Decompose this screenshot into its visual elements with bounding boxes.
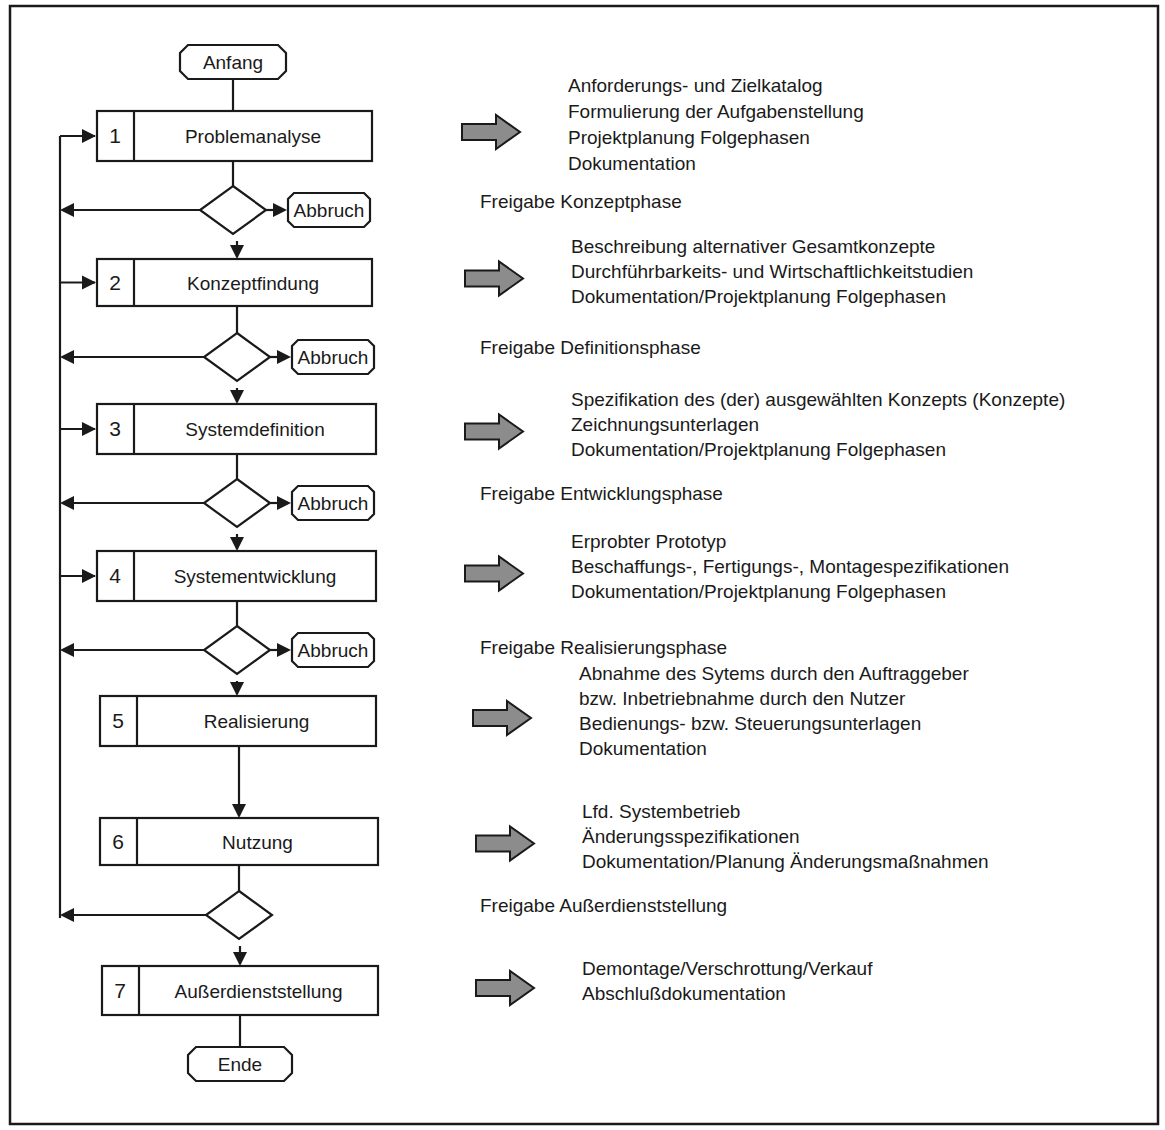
result-item: Abschlußdokumentation xyxy=(582,983,786,1004)
result-arrow-icon xyxy=(462,115,520,149)
end-label: Ende xyxy=(218,1054,262,1075)
phase-5: 5RealisierungAbnahme des Sytems durch de… xyxy=(100,663,969,759)
result-item: Formulierung der Aufgabenstellung xyxy=(568,101,864,122)
phase-4: 4SystementwicklungErprobter PrototypBesc… xyxy=(60,531,1009,674)
phase-number: 4 xyxy=(109,564,121,587)
phase-1: 1ProblemanalyseAnforderungs- und Zielkat… xyxy=(60,75,864,234)
result-item: Bedienungs- bzw. Steuerungsunterlagen xyxy=(579,713,921,734)
abort-label: Abbruch xyxy=(298,493,369,514)
decision-diamond xyxy=(206,891,272,939)
result-item: Dokumentation/Planung Änderungsmaßnahmen xyxy=(582,851,989,872)
result-item: Lfd. Systembetrieb xyxy=(582,801,740,822)
result-item: Abnahme des Sytems durch den Auftraggebe… xyxy=(579,663,969,684)
result-arrow-icon xyxy=(465,557,523,591)
end-terminal: Ende xyxy=(188,1047,292,1081)
abort-label: Abbruch xyxy=(298,347,369,368)
phase-number: 1 xyxy=(109,124,121,147)
release-label: Freigabe Realisierungsphase xyxy=(480,637,727,658)
result-item: Projektplanung Folgephasen xyxy=(568,127,810,148)
result-item: Dokumentation xyxy=(568,153,696,174)
release-label: Freigabe Außerdienststellung xyxy=(480,895,727,916)
result-item: Durchführbarkeits- und Wirtschaftlichkei… xyxy=(571,261,973,282)
result-item: Beschreibung alternativer Gesamtkonzepte xyxy=(571,236,935,257)
phase-number: 5 xyxy=(112,709,124,732)
result-item: Demontage/Verschrottung/Verkauf xyxy=(582,958,873,979)
decision-diamond xyxy=(204,333,270,381)
decision-diamond xyxy=(204,479,270,527)
abort-label: Abbruch xyxy=(298,640,369,661)
abort-terminal: Abbruch xyxy=(288,193,370,227)
phase-name: Systemdefinition xyxy=(185,419,324,440)
result-arrow-icon xyxy=(476,827,534,861)
result-item: Änderungsspezifikationen xyxy=(582,826,800,847)
abort-terminal: Abbruch xyxy=(292,486,374,520)
result-item: Dokumentation/Projektplanung Folgephasen xyxy=(571,439,946,460)
phase-name: Systementwicklung xyxy=(174,566,337,587)
phase-name: Außerdienststellung xyxy=(175,981,343,1002)
start-terminal: Anfang xyxy=(180,45,286,79)
abort-terminal: Abbruch xyxy=(292,340,374,374)
result-arrow-icon xyxy=(465,415,523,449)
phase-number: 3 xyxy=(109,417,121,440)
phase-2: 2KonzeptfindungBeschreibung alternativer… xyxy=(60,236,973,381)
release-label: Freigabe Definitionsphase xyxy=(480,337,701,358)
release-label: Freigabe Konzeptphase xyxy=(480,191,682,212)
phase-number: 2 xyxy=(109,271,121,294)
abort-label: Abbruch xyxy=(294,200,365,221)
release-label: Freigabe Entwicklungsphase xyxy=(480,483,723,504)
phase-name: Konzeptfindung xyxy=(187,273,319,294)
result-arrow-icon xyxy=(473,701,531,735)
result-arrow-icon xyxy=(465,262,523,296)
phase-number: 7 xyxy=(114,979,126,1002)
phase-3: 3SystemdefinitionSpezifikation des (der)… xyxy=(60,388,1065,527)
result-item: Erprobter Prototyp xyxy=(571,531,726,552)
phase-model-flowchart: Anfang 1ProblemanalyseAnforderungs- und … xyxy=(0,0,1165,1130)
phase-number: 6 xyxy=(112,830,124,853)
result-item: Beschaffungs-, Fertigungs-, Montagespezi… xyxy=(571,556,1009,577)
result-item: Anforderungs- und Zielkatalog xyxy=(568,75,823,96)
result-item: Dokumentation/Projektplanung Folgephasen xyxy=(571,286,946,307)
phase-name: Realisierung xyxy=(204,711,310,732)
result-item: Zeichnungsunterlagen xyxy=(571,414,759,435)
phase-name: Nutzung xyxy=(222,832,293,853)
decision-diamond xyxy=(204,626,270,674)
result-item: Dokumentation xyxy=(579,738,707,759)
result-arrow-icon xyxy=(476,971,534,1005)
result-item: Dokumentation/Projektplanung Folgephasen xyxy=(571,581,946,602)
abort-terminal: Abbruch xyxy=(292,633,374,667)
result-item: Spezifikation des (der) ausgewählten Kon… xyxy=(571,389,1065,410)
decision-diamond xyxy=(200,186,266,234)
result-item: bzw. Inbetriebnahme durch den Nutzer xyxy=(579,688,906,709)
phase-name: Problemanalyse xyxy=(185,126,321,147)
start-label: Anfang xyxy=(203,52,263,73)
phase-6: 6NutzungLfd. SystembetriebÄnderungsspezi… xyxy=(60,746,989,939)
phase-7: 7AußerdienststellungDemontage/Verschrott… xyxy=(102,946,873,1015)
